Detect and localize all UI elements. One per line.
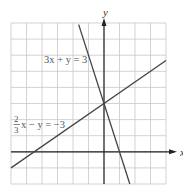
series-label-3x-plus-y: 3x + y = 3 (44, 54, 87, 65)
series-label-fraction-denominator: 3 (14, 125, 19, 135)
x-axis-label: x (179, 146, 183, 158)
y-axis-arrow-icon (102, 18, 107, 26)
series-label-two-thirds-x-minus-y: x − y = −3 (21, 119, 65, 130)
series-label-fraction-numerator: 2 (14, 114, 19, 124)
grid (11, 23, 166, 184)
linear-system-graph: x y 3x + y = 3 2 3 x − y = −3 (0, 0, 183, 192)
x-axis-arrow-icon (169, 149, 177, 154)
y-axis-label: y (102, 6, 108, 18)
